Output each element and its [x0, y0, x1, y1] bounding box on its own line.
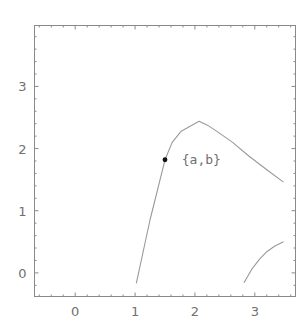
x-tick-label: 1	[131, 304, 139, 319]
y-tick-label: 3	[18, 79, 26, 94]
series-line	[244, 242, 284, 283]
series-line	[136, 121, 283, 283]
x-tick-label: 0	[71, 304, 79, 319]
y-tick-label: 0	[18, 266, 26, 281]
point-annotation: {a,b}	[182, 152, 221, 167]
point-marker	[163, 157, 168, 162]
x-tick-label: 3	[251, 304, 259, 319]
y-tick-label: 2	[18, 142, 26, 157]
y-axis-ticks: 0123	[18, 37, 295, 286]
plot: 0123 0123 {a,b}	[0, 0, 306, 331]
x-axis-ticks: 0123	[39, 26, 290, 319]
curves	[136, 121, 283, 283]
marked-points: {a,b}	[163, 152, 221, 167]
y-tick-label: 1	[18, 204, 26, 219]
x-tick-label: 2	[191, 304, 199, 319]
